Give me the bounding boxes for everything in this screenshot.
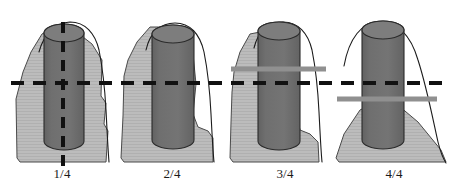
implant-cylinder-body bbox=[152, 25, 194, 149]
implant-top-ellipse bbox=[258, 22, 300, 40]
panels-layer bbox=[16, 21, 446, 163]
panel-labels-row: 1/4 2/4 3/4 4/4 bbox=[0, 166, 457, 186]
figure-canvas bbox=[0, 0, 457, 190]
implant-cylinder-body bbox=[258, 22, 300, 150]
panel-label-3: 3/4 bbox=[255, 166, 315, 182]
implant-top-ellipse bbox=[362, 21, 404, 39]
panel-4 bbox=[336, 21, 446, 163]
panel-3 bbox=[230, 22, 322, 162]
panel-label-2: 2/4 bbox=[142, 166, 202, 182]
panel-label-1: 1/4 bbox=[32, 166, 92, 182]
panel-2 bbox=[121, 23, 214, 162]
implant-top-ellipse bbox=[152, 25, 194, 43]
figure-root: 1/4 2/4 3/4 4/4 bbox=[0, 0, 457, 190]
panel-label-4: 4/4 bbox=[364, 166, 424, 182]
